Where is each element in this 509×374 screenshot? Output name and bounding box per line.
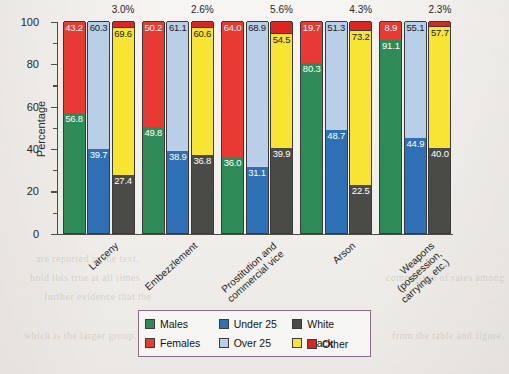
stacked-bar[interactable]: 38.961.1 [166, 22, 189, 234]
other-percent-annotation: 2.6% [191, 4, 214, 15]
stacked-bar[interactable]: 48.751.3 [325, 22, 348, 234]
segment-value-label: 39.9 [271, 149, 292, 159]
y-tick-minor [53, 128, 57, 129]
segment-value-label: 27.4 [113, 176, 134, 186]
segment-value-label: 50.2 [143, 23, 164, 33]
y-tick-label: 100 [21, 16, 39, 28]
x-axis-label-line: Embezzlement [143, 240, 200, 292]
bar-segment: 80.3 [301, 63, 322, 233]
legend-swatch [145, 319, 155, 329]
y-tick-label: 40 [27, 143, 39, 155]
bar-segment: 44.9 [405, 138, 426, 233]
segment-value-label: 61.1 [167, 23, 188, 33]
stacked-bar[interactable]: 39.760.3 [87, 22, 110, 234]
stacked-bar[interactable]: 40.057.7 [428, 22, 451, 234]
segment-value-label: 54.5 [271, 35, 292, 45]
bar-segment: 40.0 [429, 148, 450, 233]
other-percent-annotation: 3.0% [112, 4, 135, 15]
stacked-bar[interactable]: 22.573.2 [349, 22, 372, 234]
stacked-bar[interactable]: 36.064.0 [221, 22, 244, 234]
bar-segment [350, 21, 371, 30]
legend-swatch [219, 338, 229, 348]
bar-segment: 36.0 [222, 157, 243, 233]
legend-swatch [219, 319, 229, 329]
legend-item[interactable]: Under 25 [219, 318, 291, 330]
x-axis-label: Arson [331, 240, 358, 266]
legend-label: Over 25 [234, 337, 271, 349]
bar-segment: 22.5 [350, 185, 371, 233]
y-tick-label: 80 [27, 58, 39, 70]
y-tick-label: 20 [27, 185, 39, 197]
bar-group: 91.18.944.955.140.057.72.3% [379, 22, 451, 234]
bar-segment: 55.1 [405, 21, 426, 138]
legend-label: Females [160, 337, 200, 349]
segment-value-label: 60.6 [192, 29, 213, 39]
legend-label: Other [322, 338, 348, 350]
y-tick-minor [53, 43, 57, 44]
segment-value-label: 73.2 [350, 32, 371, 42]
bar-segment: 19.7 [301, 21, 322, 63]
bar-segment: 57.7 [429, 26, 450, 148]
bar-segment: 51.3 [326, 21, 347, 130]
segment-value-label: 8.9 [380, 23, 401, 33]
stacked-bar[interactable]: 39.954.5 [270, 22, 293, 234]
bar-segment: 64.0 [222, 21, 243, 157]
stacked-bar[interactable]: 36.860.6 [191, 22, 214, 234]
segment-value-label: 80.3 [301, 64, 322, 74]
y-tick-major: 80 [51, 64, 57, 65]
legend-item[interactable]: White [292, 318, 364, 330]
y-tick-minor [53, 213, 57, 214]
segment-value-label: 49.8 [143, 128, 164, 138]
segment-value-label: 60.3 [88, 23, 109, 33]
y-axis-line [57, 22, 58, 235]
bar-segment: 43.2 [64, 21, 85, 113]
segment-value-label: 36.8 [192, 156, 213, 166]
stacked-bar[interactable]: 80.319.7 [300, 22, 323, 234]
legend-item[interactable]: Other [307, 338, 348, 350]
stacked-bar[interactable]: 44.955.1 [404, 22, 427, 234]
bar-segment: 50.2 [143, 21, 164, 127]
bar-segment: 49.8 [143, 127, 164, 233]
segment-value-label: 43.2 [64, 23, 85, 33]
bar-segment: 73.2 [350, 30, 371, 185]
segment-value-label: 31.1 [247, 168, 268, 178]
legend-swatch [292, 338, 302, 348]
bar-segment: 36.8 [192, 155, 213, 233]
bar-segment: 54.5 [271, 33, 292, 149]
x-axis-label-line: Larceny [86, 240, 120, 272]
y-tick-major: 0 [51, 234, 57, 235]
segment-value-label: 40.0 [429, 149, 450, 159]
stacked-bar[interactable]: 27.469.6 [112, 22, 135, 234]
bar-segment: 56.8 [64, 113, 85, 233]
stacked-bar[interactable]: 49.850.2 [142, 22, 165, 234]
bar-segment: 60.3 [88, 21, 109, 149]
stacked-bar[interactable]: 56.843.2 [63, 22, 86, 234]
other-percent-annotation: 4.3% [349, 4, 372, 15]
x-axis-label: Weapons(possession,carrying, etc.) [384, 240, 451, 305]
segment-value-label: 19.7 [301, 23, 322, 33]
bar-segment: 39.9 [271, 148, 292, 233]
segment-value-label: 22.5 [350, 186, 371, 196]
bar-group: 80.319.748.751.322.573.24.3% [300, 22, 372, 234]
bar-segment: 38.9 [167, 151, 188, 233]
chart-legend: MalesUnder 25WhiteFemalesOver 25BlackOth… [138, 310, 371, 357]
bar-segment [271, 21, 292, 33]
legend-item[interactable]: Males [145, 318, 217, 330]
stacked-bar[interactable]: 91.18.9 [379, 22, 402, 234]
legend-item[interactable]: Over 25 [219, 337, 291, 349]
segment-value-label: 55.1 [405, 23, 426, 33]
x-axis-label: Larceny [86, 240, 120, 272]
bar-segment: 69.6 [113, 27, 134, 175]
segment-value-label: 44.9 [405, 139, 426, 149]
y-tick-label: 60 [27, 101, 39, 113]
bar-segment: 8.9 [380, 21, 401, 40]
bar-segment: 31.1 [247, 167, 268, 233]
segment-value-label: 57.7 [429, 28, 450, 38]
legend-item[interactable]: Females [145, 337, 217, 349]
bar-segment: 91.1 [380, 40, 401, 233]
stacked-bar-chart: Percentage 020406080100 56.843.239.760.3… [0, 0, 509, 374]
y-tick-minor [53, 170, 57, 171]
bar-group: 49.850.238.961.136.860.62.6% [142, 22, 214, 234]
stacked-bar[interactable]: 31.168.9 [246, 22, 269, 234]
bar-segment: 61.1 [167, 21, 188, 151]
